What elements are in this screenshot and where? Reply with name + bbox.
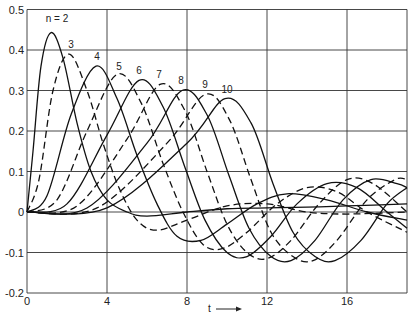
series-label: 9	[202, 79, 208, 90]
x-tick-label: 16	[341, 295, 353, 307]
y-tick-label: 0.2	[9, 125, 24, 137]
x-tick-label: 12	[261, 295, 273, 307]
x-tick-label: 4	[104, 295, 110, 307]
series-label: 7	[156, 69, 162, 80]
series-label: 5	[116, 61, 122, 72]
curve-n2	[27, 32, 407, 216]
x-axis-label: t	[208, 303, 211, 314]
series-label: 4	[94, 51, 100, 62]
curve-n5	[27, 74, 407, 250]
series-label: n = 2	[46, 13, 69, 24]
series-labels: n = 2345678910	[46, 13, 233, 95]
y-tick-label: 0.4	[9, 44, 24, 56]
y-tick-label: 0.5	[9, 4, 24, 16]
curve-n8	[27, 90, 407, 262]
line-chart: 0.50.40.30.20.10-0.1-0.20481216 n = 2345…	[0, 0, 415, 318]
series-label: 3	[68, 39, 74, 50]
y-tick-label: 0.1	[9, 166, 24, 178]
y-tick-label: -0.2	[5, 287, 24, 299]
y-tick-label: -0.1	[5, 247, 24, 259]
y-tick-label: 0	[18, 206, 24, 218]
curve-n4	[27, 66, 407, 242]
series-label: 10	[221, 84, 233, 95]
series-label: 6	[136, 65, 142, 76]
curve-n3	[27, 54, 407, 230]
y-tick-label: 0.3	[9, 85, 24, 97]
x-tick-label: 0	[24, 295, 30, 307]
axis-ticks: 0.50.40.30.20.10-0.1-0.20481216	[5, 4, 353, 308]
x-tick-label: 8	[184, 295, 190, 307]
series-label: 8	[178, 75, 184, 86]
x-axis-arrow	[216, 307, 242, 312]
curves	[27, 32, 407, 261]
